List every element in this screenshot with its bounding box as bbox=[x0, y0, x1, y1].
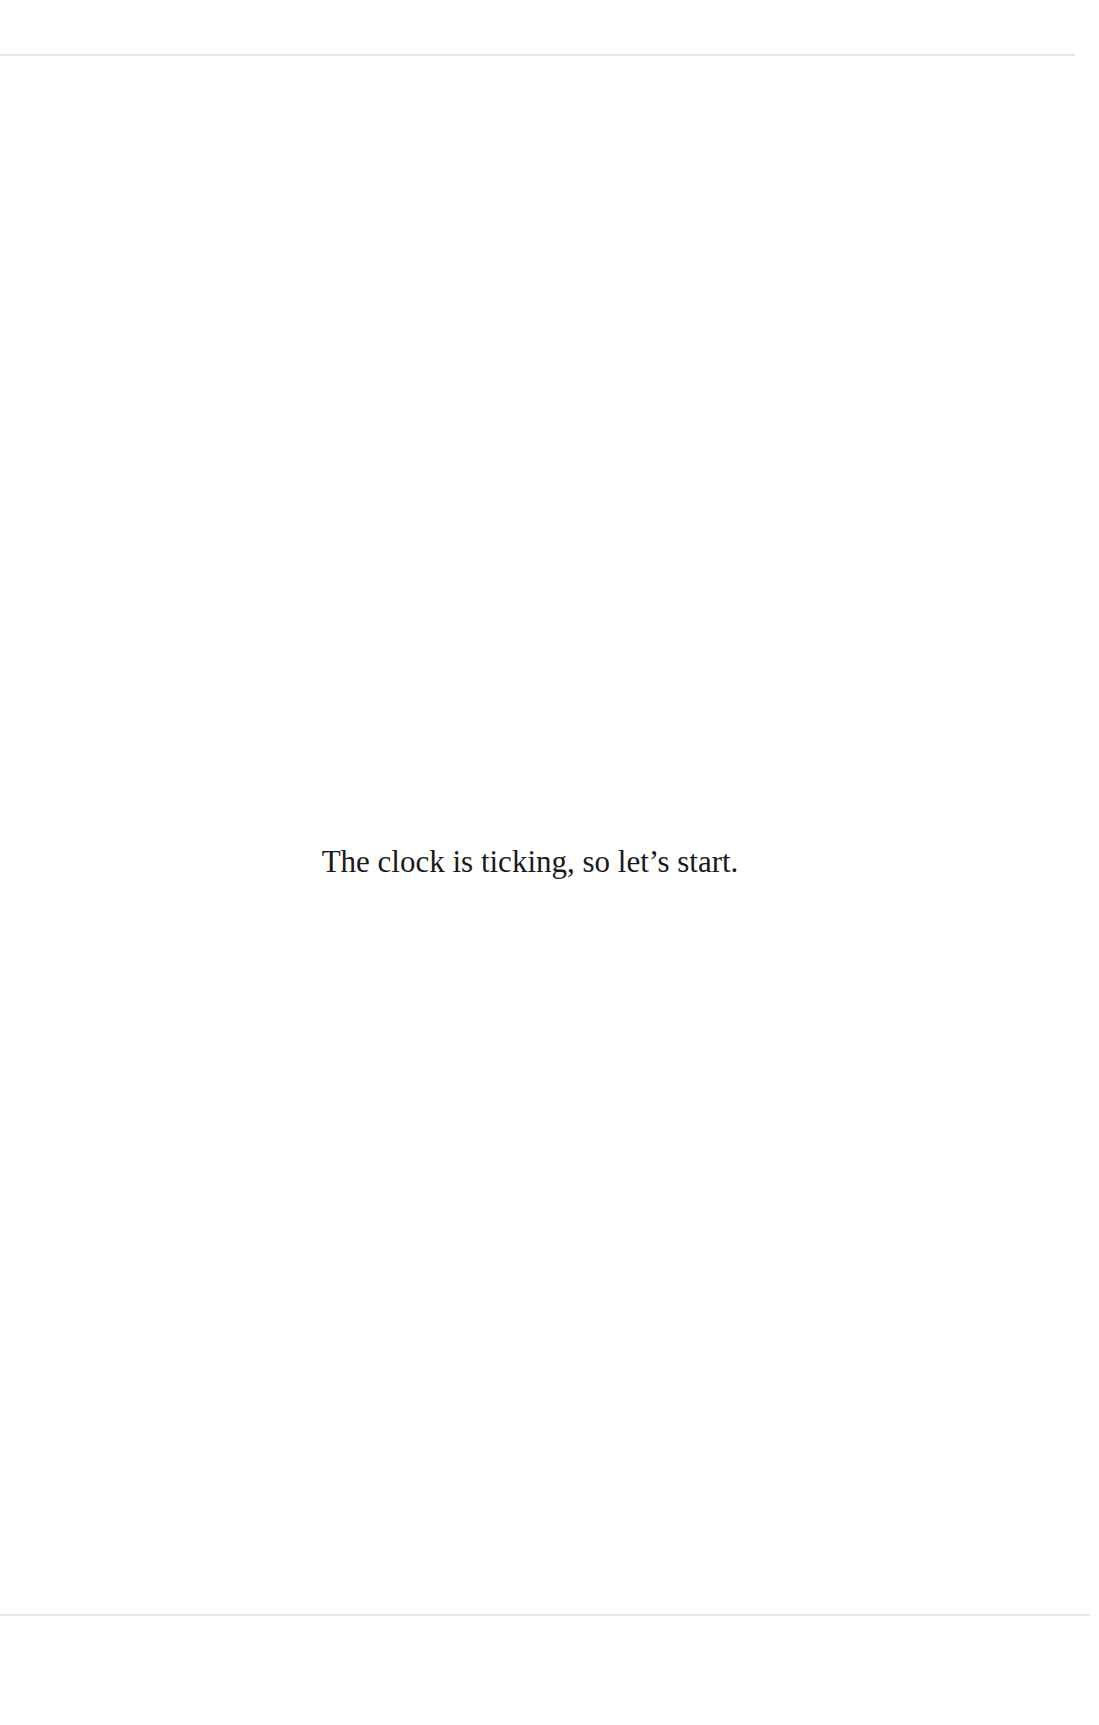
top-rule bbox=[0, 54, 1075, 56]
page-body-text: The clock is ticking, so let’s start. bbox=[0, 842, 1060, 882]
bottom-rule bbox=[0, 1614, 1090, 1616]
